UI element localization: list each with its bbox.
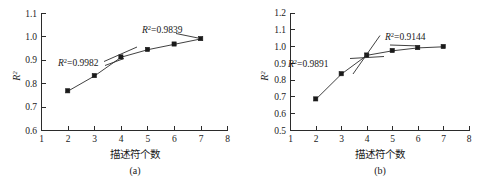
- x-tick-label: 2: [66, 134, 71, 144]
- y-axis-label-b: R2: [259, 71, 270, 82]
- x-tick-label: 5: [145, 134, 150, 144]
- y-ticks-b: [291, 13, 296, 131]
- x-tick-label: 2: [314, 134, 319, 144]
- y-ticks-a: [42, 13, 47, 130]
- x-tick-label: 3: [339, 134, 344, 144]
- x-tick-labels-b: 1 2 3 4 5 6 7 8: [288, 134, 472, 144]
- y-tick-label: 0.6: [25, 126, 37, 136]
- svg-text:R2: R2: [11, 71, 22, 82]
- x-axis-label-a: 描述符个数: [110, 148, 161, 160]
- y-tick-label: 0.5: [274, 126, 286, 136]
- x-tick-label: 8: [467, 134, 472, 144]
- data-point: [441, 44, 445, 48]
- y-tick-label: 0.7: [25, 102, 37, 112]
- chart-svg-b: 0.5 0.6 0.7 0.8 0.9 1.0 1.1 1.2: [240, 0, 481, 179]
- data-point: [119, 55, 123, 59]
- y-tick-label: 1.0: [274, 42, 286, 52]
- data-point: [314, 97, 318, 101]
- x-tick-label: 1: [39, 134, 44, 144]
- annotation-r2-right-a: R2=0.9839: [141, 24, 183, 35]
- annotation-r2-left-b: R2=0.9891: [287, 58, 329, 69]
- annotation-leader-b-right: [390, 45, 420, 46]
- x-ticks-b: [291, 126, 470, 131]
- panel-caption-b: (b): [374, 165, 386, 177]
- y-tick-label: 0.7: [274, 92, 286, 102]
- y-tick-label: 0.6: [274, 109, 286, 119]
- x-tick-label: 8: [225, 134, 230, 144]
- data-point: [339, 72, 343, 76]
- chart-panel-a: 0.6 0.7 0.8 0.9 1.0 1.1 1 2: [0, 0, 240, 179]
- x-tick-label: 7: [199, 134, 204, 144]
- data-point: [92, 74, 96, 78]
- data-point: [199, 37, 203, 41]
- y-tick-label: 0.9: [274, 59, 286, 69]
- x-tick-label: 7: [441, 134, 446, 144]
- y-tick-label: 1.1: [274, 25, 286, 35]
- y-tick-label: 1.1: [25, 9, 37, 19]
- y-tick-labels-a: 0.6 0.7 0.8 0.9 1.0 1.1: [25, 9, 37, 136]
- y-axis-label-a: R2: [11, 71, 22, 82]
- panel-caption-a: (a): [129, 165, 140, 177]
- data-point: [66, 89, 70, 93]
- svg-text:R2: R2: [259, 71, 270, 82]
- annotation-r2-left-a: R2=0.9982: [57, 57, 99, 68]
- y-tick-label: 1.2: [274, 8, 286, 18]
- x-tick-label: 4: [119, 134, 124, 144]
- figure-container: 0.6 0.7 0.8 0.9 1.0 1.1 1 2: [0, 0, 481, 179]
- chart-svg-a: 0.6 0.7 0.8 0.9 1.0 1.1 1 2: [0, 0, 240, 179]
- y-tick-labels-b: 0.5 0.6 0.7 0.8 0.9 1.0 1.1 1.2: [274, 8, 286, 136]
- y-tick-label: 0.8: [274, 75, 286, 85]
- data-point: [390, 48, 394, 52]
- x-tick-label: 6: [172, 134, 177, 144]
- annotation-r2-right-b: R2=0.9144: [384, 31, 426, 42]
- x-tick-label: 4: [365, 134, 370, 144]
- chart-panel-b: 0.5 0.6 0.7 0.8 0.9 1.0 1.1 1.2: [240, 0, 480, 179]
- y-tick-label: 0.9: [25, 55, 37, 65]
- x-tick-label: 3: [92, 134, 97, 144]
- data-series-line-b: [316, 47, 444, 99]
- x-ticks-a: [42, 126, 228, 131]
- x-tick-label: 6: [416, 134, 421, 144]
- trend-segment-b-left: [353, 36, 380, 75]
- data-point: [145, 47, 149, 51]
- y-tick-label: 0.8: [25, 79, 37, 89]
- x-tick-labels-a: 1 2 3 4 5 6 7 8: [39, 134, 230, 144]
- x-tick-label: 5: [390, 134, 395, 144]
- x-axis-label-b: 描述符个数: [355, 148, 406, 160]
- x-tick-label: 1: [288, 134, 293, 144]
- data-point: [172, 42, 176, 46]
- y-tick-label: 1.0: [25, 32, 37, 42]
